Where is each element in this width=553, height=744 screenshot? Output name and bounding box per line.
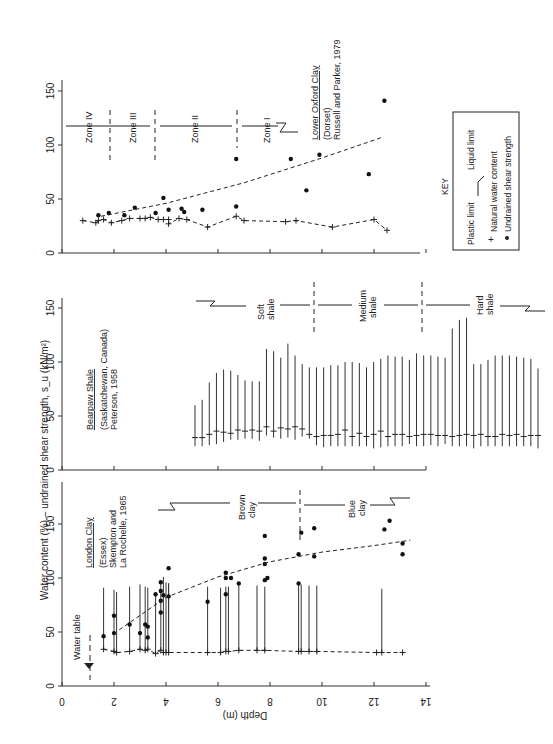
x-tick-label: 6 xyxy=(215,696,221,707)
data-point xyxy=(127,622,131,626)
data-point xyxy=(312,526,316,530)
zone-3-label: Zone III xyxy=(128,112,138,143)
data-point xyxy=(205,600,209,604)
data-point xyxy=(317,153,321,157)
y-tick-label: 50 xyxy=(45,193,56,205)
data-point xyxy=(112,631,116,635)
legend-dot-icon xyxy=(505,236,509,240)
data-point xyxy=(289,157,293,161)
legend-undrained-shear-strength: Undrained shear strength xyxy=(503,136,513,232)
data-point xyxy=(400,552,404,556)
data-point xyxy=(138,631,142,635)
data-point xyxy=(159,589,163,593)
zone-2-label: Zone II xyxy=(190,115,200,143)
blue-clay-label-2: clay xyxy=(357,499,367,516)
data-point xyxy=(263,534,267,538)
data-point xyxy=(237,581,241,585)
data-point xyxy=(299,530,303,534)
data-point xyxy=(234,204,238,208)
data-point xyxy=(161,196,165,200)
y-tick-label: 0 xyxy=(45,683,56,689)
x-tick-label: 4 xyxy=(163,696,169,707)
data-point xyxy=(382,527,386,531)
data-point xyxy=(96,213,100,217)
y-tick-label: 100 xyxy=(45,136,56,153)
data-point xyxy=(265,576,269,580)
legend-plastic-limit: Plastic limit xyxy=(466,202,476,245)
zone-4-label: Zone IV xyxy=(84,111,94,143)
hard-shale-label-1: Hard xyxy=(475,295,485,315)
data-point xyxy=(224,576,228,580)
data-point xyxy=(312,554,316,558)
legend-natural-water-content: Natural water content xyxy=(489,151,499,232)
oxford-title: Lower Oxford Clay xyxy=(310,65,320,140)
london-ref-2: La Rochelle, 1965 xyxy=(118,495,128,568)
data-point xyxy=(161,593,165,597)
data-point xyxy=(112,614,116,618)
legend: KEY Plastic limit Liquid limit + Natural… xyxy=(440,112,519,250)
bearpaw-title: Bearpaw Shale xyxy=(85,369,95,430)
data-point xyxy=(224,592,228,596)
data-point xyxy=(200,208,204,212)
oxford-subtitle: (Dorset) xyxy=(322,107,332,140)
data-point xyxy=(166,208,170,212)
bearpaw-subtitle: (Saskatchewan, Canada) xyxy=(99,329,109,430)
data-point xyxy=(159,610,163,614)
legend-plus-icon: + xyxy=(488,234,494,245)
continuation-arrow-icon xyxy=(276,123,298,132)
london-ref-1: Skempton and xyxy=(108,510,118,568)
continuation-arrow-icon xyxy=(158,503,230,510)
y-tick-label: 50 xyxy=(45,626,56,638)
data-point xyxy=(304,188,308,192)
data-point xyxy=(182,210,186,214)
x-tick-label: 12 xyxy=(368,696,380,707)
medium-shale-label-2: shale xyxy=(368,296,378,318)
x-tick-label: 8 xyxy=(267,696,273,707)
oxford-annotations: Zone IV Zone III Zone II Zone I Lower Ox… xyxy=(66,39,342,160)
soft-shale-label-1: Soft xyxy=(256,303,266,320)
medium-shale-label-1: Medium xyxy=(358,290,368,322)
x-tick-label: 2 xyxy=(111,696,117,707)
y-tick-label: 0 xyxy=(45,250,56,256)
london-annotations: London Clay (Essex) Skempton and La Roch… xyxy=(72,490,410,680)
bearpaw-ref: Peterson, 1958 xyxy=(109,369,119,430)
data-point xyxy=(101,634,105,638)
x-axis-label: Depth (m) xyxy=(223,710,267,721)
london-panel xyxy=(101,519,411,657)
data-point xyxy=(146,635,150,639)
data-point xyxy=(153,592,157,596)
data-point xyxy=(229,576,233,580)
blue-clay-label-1: Blue xyxy=(347,500,357,518)
data-point xyxy=(367,172,371,176)
data-point xyxy=(400,541,404,545)
legend-liquid-limit: Liquid limit xyxy=(466,129,476,170)
continuation-arrow-icon xyxy=(500,306,545,311)
soft-shale-label-2: shale xyxy=(266,298,276,320)
data-point xyxy=(159,580,163,584)
data-point xyxy=(153,211,157,215)
brown-clay-label-2: clay xyxy=(247,501,257,518)
london-subtitle: (Essex) xyxy=(98,537,108,568)
continuation-arrow-icon xyxy=(370,498,410,505)
london-title: London Clay xyxy=(84,517,94,568)
bearpaw-panel xyxy=(192,318,541,449)
data-point xyxy=(166,566,170,570)
x-tick-label: 14 xyxy=(420,696,432,707)
bearpaw-annotations: Bearpaw Shale (Saskatchewan, Canada) Pet… xyxy=(85,282,545,430)
y-tick-label: 150 xyxy=(45,82,56,99)
data-point xyxy=(387,519,391,523)
data-point xyxy=(263,556,267,560)
water-table-label: Water table xyxy=(72,614,82,660)
hard-shale-label-2: shale xyxy=(485,293,495,315)
data-point xyxy=(122,213,126,217)
y-tick-label: 150 xyxy=(45,299,56,316)
brown-clay-label-1: Brown xyxy=(237,494,247,520)
data-point xyxy=(382,99,386,103)
x-tick-label: 0 xyxy=(59,696,65,707)
y-axis-label: Water content (%) – undrained shear stre… xyxy=(39,340,50,600)
figure: 05010015005010015005010015002468101214 W… xyxy=(0,0,553,744)
oxford-ref: Russell and Parker, 1979 xyxy=(332,39,342,140)
data-point xyxy=(146,624,150,628)
data-point xyxy=(234,157,238,161)
data-point xyxy=(296,581,300,585)
